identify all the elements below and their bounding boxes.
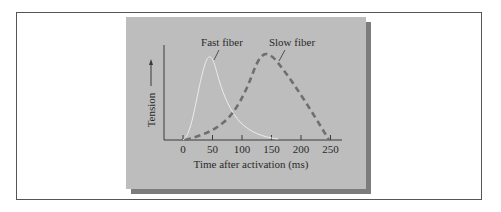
y-axis-arrow-icon [149,59,153,86]
x-tick-label: 150 [263,143,280,155]
x-tick-label: 250 [322,143,339,155]
slow-fiber-label: Slow fiber [269,36,315,48]
x-tick-label: 200 [293,143,310,155]
x-tick-label: 100 [234,143,251,155]
x-tick-labels: 0 50 100 150 200 250 [180,143,339,155]
chart-svg: 0 50 100 150 200 250 Time after activati… [0,0,501,212]
x-tick-label: 50 [207,143,219,155]
slow-fiber-pointer [279,50,285,61]
x-axis-label: Time after activation (ms) [194,158,309,171]
fast-fiber-label: Fast fiber [201,36,243,48]
y-axis-label: Tension [145,92,157,127]
slow-fiber-curve [185,54,329,140]
x-tick-label: 0 [180,143,186,155]
fast-fiber-curve [183,57,278,140]
x-ticks [183,135,331,140]
fast-fiber-pointer [214,50,219,60]
